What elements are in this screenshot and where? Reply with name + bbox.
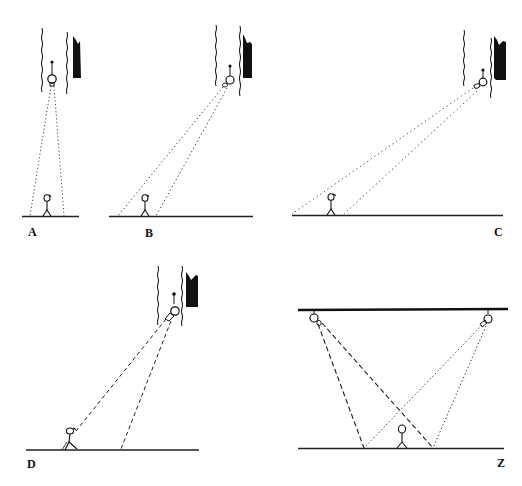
fov-ray-right bbox=[156, 88, 227, 216]
wall-left bbox=[464, 30, 465, 86]
right-camera-ray-near bbox=[433, 326, 486, 448]
panel-c bbox=[292, 30, 506, 216]
diagram-stage: A B C D Z bbox=[0, 0, 522, 486]
fov-ray-left bbox=[292, 88, 473, 214]
camera-icon bbox=[222, 64, 234, 87]
left-camera-ray-near bbox=[318, 324, 364, 448]
wall-left bbox=[216, 25, 217, 86]
wall-right bbox=[240, 26, 241, 96]
fov-ray-right bbox=[54, 86, 64, 216]
wall-block bbox=[243, 34, 252, 78]
person-figure bbox=[141, 195, 149, 216]
wall-right bbox=[491, 38, 492, 98]
panel-label-c: C bbox=[494, 226, 503, 238]
panel-d bbox=[26, 266, 199, 450]
panel-label-b: B bbox=[145, 227, 153, 239]
camera-icon-left bbox=[310, 310, 321, 326]
wall-block bbox=[494, 36, 506, 80]
wall-right bbox=[182, 266, 183, 326]
camera-icon bbox=[473, 68, 486, 89]
fov-ray-left bbox=[118, 87, 223, 216]
person-figure bbox=[62, 428, 77, 450]
person-figure bbox=[327, 194, 336, 215]
left-camera-ray-far bbox=[322, 323, 433, 448]
fov-ray-left bbox=[30, 86, 51, 216]
panel-b bbox=[109, 25, 253, 217]
right-camera-ray-far bbox=[364, 325, 482, 448]
person-figure bbox=[397, 425, 407, 448]
fov-ray-right bbox=[121, 321, 171, 449]
panel-label-d: D bbox=[27, 458, 36, 470]
wall-block bbox=[186, 272, 198, 307]
person-figure bbox=[43, 195, 51, 216]
camera-icon bbox=[165, 292, 179, 321]
panel-label-z: Z bbox=[497, 457, 505, 469]
panel-z bbox=[298, 309, 508, 449]
wall-right bbox=[67, 32, 68, 94]
diagram-canvas bbox=[0, 0, 522, 486]
wall-left bbox=[158, 266, 159, 325]
ceiling-bar bbox=[298, 309, 508, 310]
wall-block bbox=[73, 36, 81, 78]
panel-label-a: A bbox=[28, 226, 37, 238]
fov-ray-left bbox=[76, 319, 166, 431]
panel-a bbox=[22, 28, 81, 217]
fov-ray-right bbox=[344, 91, 477, 214]
camera-icon bbox=[48, 60, 56, 86]
camera-icon-right bbox=[480, 310, 492, 327]
wall-left bbox=[42, 28, 43, 92]
